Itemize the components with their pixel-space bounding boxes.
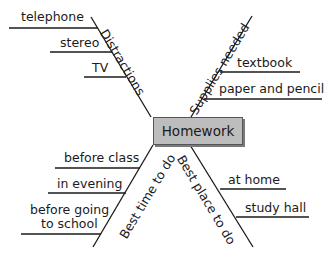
item-before-going: before going bbox=[30, 203, 109, 217]
item-at-home: at home bbox=[228, 173, 280, 187]
item-paper-and-pencil: paper and pencil bbox=[219, 82, 324, 96]
item-stereo: stereo bbox=[60, 36, 99, 50]
item-in-evening: in evening bbox=[57, 177, 122, 191]
center-node: Homework bbox=[153, 117, 243, 145]
item-telephone: telephone bbox=[21, 10, 84, 24]
item-tv: TV bbox=[92, 61, 108, 75]
item-study-hall: study hall bbox=[245, 201, 306, 215]
item-before-class: before class bbox=[64, 151, 139, 165]
item-to-school: to school bbox=[41, 217, 98, 231]
center-label: Homework bbox=[162, 123, 235, 139]
item-textbook: textbook bbox=[237, 56, 292, 70]
